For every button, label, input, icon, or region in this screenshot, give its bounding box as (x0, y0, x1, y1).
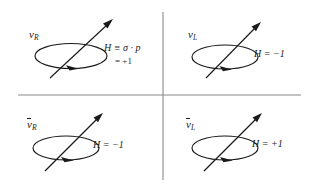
particle-subscript: L (193, 33, 197, 42)
particle-label-top-right: νL (188, 29, 197, 41)
helicity-label-bottom-left: H = −1 (93, 139, 124, 152)
particle-symbol: ν (27, 118, 32, 130)
particle-symbol: ν (186, 118, 191, 130)
particle-label-bottom-right: νL (186, 119, 195, 131)
momentum-arrow-shaft (50, 24, 108, 78)
particle-label-top-left: νR (29, 29, 38, 41)
momentum-arrow-shaft (204, 118, 257, 171)
spin-momentum-glyph-bottom-left (0, 96, 159, 191)
particle-subscript: R (32, 123, 37, 132)
particle-subscript: R (34, 33, 39, 42)
helicity-expression: H = −1 (254, 48, 285, 59)
spin-rotation-ellipse (192, 45, 258, 69)
particle-subscript: L (191, 123, 195, 132)
quadrant-bottom-right: νL H = +1 (159, 96, 318, 191)
momentum-arrow-shaft (45, 118, 98, 171)
neutrino-helicity-diagram: νR H ≡ σ · p = +1 νL H = −1 νR (0, 0, 318, 191)
spin-momentum-glyph-bottom-right (159, 96, 318, 191)
helicity-expression: H ≡ σ · p (104, 42, 140, 53)
spin-rotation-ellipse (33, 136, 99, 160)
quadrant-bottom-left: νR H = −1 (0, 96, 159, 191)
particle-label-bottom-left: νR (27, 119, 36, 131)
helicity-label-top-left: H ≡ σ · p = +1 (104, 42, 140, 67)
spin-rotation-ellipse (35, 44, 107, 69)
helicity-label-bottom-right: H = +1 (252, 138, 283, 151)
helicity-value: = +1 (115, 56, 140, 67)
momentum-arrow-shaft (206, 27, 256, 78)
helicity-label-top-right: H = −1 (254, 48, 285, 61)
spin-momentum-glyph-top-right (159, 0, 318, 95)
antiparticle-overbar: ν (27, 119, 32, 130)
helicity-expression: H = −1 (93, 139, 124, 150)
antiparticle-overbar: ν (186, 119, 191, 130)
quadrant-top-left: νR H ≡ σ · p = +1 (0, 0, 159, 95)
spin-rotation-ellipse (192, 136, 258, 160)
quadrant-top-right: νL H = −1 (159, 0, 318, 95)
helicity-expression: H = +1 (252, 138, 283, 149)
